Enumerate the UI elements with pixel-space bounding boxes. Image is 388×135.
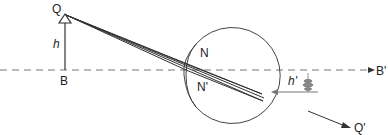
label-q: Q <box>52 3 61 15</box>
image-arrowhead <box>271 89 278 95</box>
ray-4 <box>66 15 186 64</box>
eye-diagram <box>0 0 388 135</box>
label-b: B <box>60 75 68 87</box>
label-b-prime: B' <box>376 65 386 77</box>
ray-5 <box>66 15 186 70</box>
axis-arrowhead <box>368 67 375 73</box>
label-n-prime: N' <box>197 81 208 93</box>
label-h-prime: h' <box>288 75 297 87</box>
q-prime-arrowhead <box>341 122 351 128</box>
image-symbol-icon <box>303 73 313 92</box>
q-prime-arrow-line <box>308 111 345 126</box>
label-h: h <box>53 38 60 50</box>
label-q-prime: Q' <box>354 122 366 134</box>
label-n: N <box>200 47 209 59</box>
